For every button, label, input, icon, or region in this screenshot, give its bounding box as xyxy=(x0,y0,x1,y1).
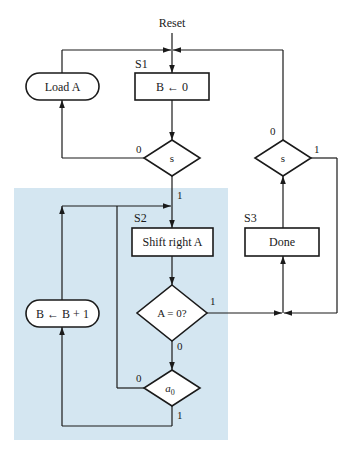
s-right-out0-label: 0 xyxy=(270,125,276,137)
a-zero-out1-label: 1 xyxy=(210,295,216,307)
load-a-text: Load A xyxy=(45,80,81,94)
asm-chart: Reset Load A S1 B ← 0 s 0 1 S2 Shift rig… xyxy=(0,0,359,458)
state-label-s3: S3 xyxy=(244,211,257,225)
a0-out0-label: 0 xyxy=(136,372,142,384)
state-label-s2: S2 xyxy=(134,211,147,225)
s2-action-text: Shift right A xyxy=(142,235,202,249)
state-label-s1: S1 xyxy=(135,57,148,71)
s-left-out0-label: 0 xyxy=(136,143,142,155)
s-decision-right-text: s xyxy=(281,152,285,164)
a-zero-decision-text: A = 0? xyxy=(157,307,187,319)
a-zero-out0-label: 0 xyxy=(177,340,183,352)
b-increment-text: B ← B + 1 xyxy=(36,307,89,321)
a0-out1-label: 1 xyxy=(177,409,183,421)
s-right-out1-label: 1 xyxy=(314,143,320,155)
s3-action-text: Done xyxy=(269,235,295,249)
s-decision-left-text: s xyxy=(170,152,174,164)
s1-action-text: B ← 0 xyxy=(156,80,188,94)
s-left-out1-label: 1 xyxy=(177,189,183,201)
reset-label: Reset xyxy=(159,16,186,30)
